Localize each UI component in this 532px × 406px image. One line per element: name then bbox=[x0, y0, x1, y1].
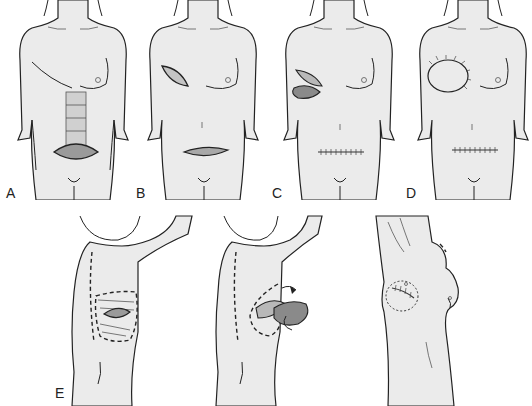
panel-label-b: B bbox=[136, 185, 145, 201]
front-torso-illustration-b bbox=[140, 0, 260, 200]
back-view-flap-rotation-illustration bbox=[210, 212, 340, 406]
front-torso-illustration-d bbox=[410, 0, 530, 200]
panel-d bbox=[410, 0, 530, 200]
back-view-flap-outline-illustration bbox=[60, 212, 200, 406]
panel-label-a: A bbox=[6, 185, 15, 201]
panel-label-c: C bbox=[272, 185, 282, 201]
front-torso-illustration-c bbox=[276, 0, 396, 200]
panel-b bbox=[140, 0, 260, 200]
panel-e-view-1 bbox=[60, 212, 200, 406]
panel-c bbox=[276, 0, 396, 200]
panel-label-e: E bbox=[55, 385, 64, 401]
panel-a bbox=[10, 0, 130, 200]
front-torso-illustration-a bbox=[10, 0, 130, 200]
panel-e-view-2 bbox=[210, 212, 340, 406]
side-view-flap-inset-illustration bbox=[370, 212, 480, 406]
panel-label-d: D bbox=[406, 185, 416, 201]
panel-e-view-3 bbox=[370, 212, 480, 406]
